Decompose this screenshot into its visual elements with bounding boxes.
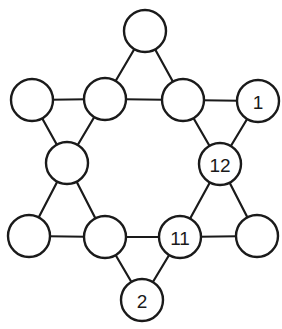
node-n0 <box>124 10 166 52</box>
node-circle <box>162 79 204 121</box>
node-circle <box>8 215 50 257</box>
node-label: 1 <box>253 92 264 113</box>
node-label: 12 <box>209 155 230 176</box>
node-n11: 2 <box>121 279 163 321</box>
node-n4: 1 <box>237 80 279 122</box>
node-n6: 12 <box>199 143 241 185</box>
hexagram-puzzle-diagram: 112112 <box>0 0 282 329</box>
node-n9: 11 <box>159 216 201 258</box>
node-circle <box>46 142 88 184</box>
node-n8 <box>84 216 126 258</box>
node-circle <box>84 78 126 120</box>
node-circle <box>236 215 278 257</box>
node-n5 <box>46 142 88 184</box>
node-n10 <box>236 215 278 257</box>
node-circle <box>84 216 126 258</box>
node-n7 <box>8 215 50 257</box>
node-circle <box>124 10 166 52</box>
node-label: 11 <box>170 228 190 249</box>
node-layer: 112112 <box>8 10 279 321</box>
node-n3 <box>162 79 204 121</box>
node-label: 2 <box>137 291 148 312</box>
node-n1 <box>11 79 53 121</box>
node-circle <box>11 79 53 121</box>
node-n2 <box>84 78 126 120</box>
